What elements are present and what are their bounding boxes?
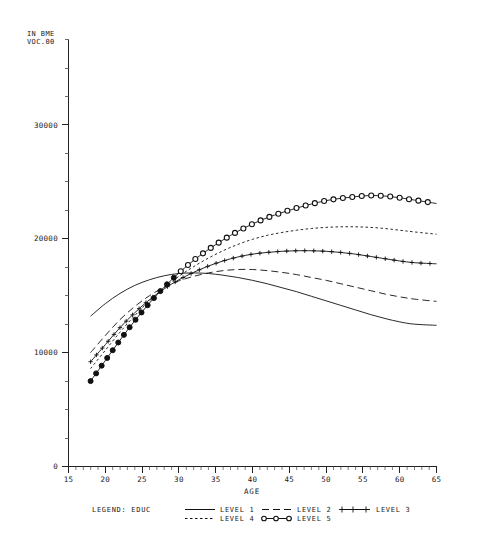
series-marker	[365, 254, 369, 258]
series-marker	[185, 263, 190, 268]
legend-label-level-2: LEVEL 2	[297, 506, 331, 514]
series-marker	[205, 264, 209, 268]
series-marker	[232, 230, 237, 235]
x-tick-label-55: 55	[358, 475, 368, 484]
x-tick-label-40: 40	[248, 475, 258, 484]
y-axis-label-line1: IN BME	[27, 30, 55, 38]
series-marker	[189, 271, 193, 275]
series-marker	[369, 193, 374, 198]
line-chart-svg: IN BME VOC.00 0 10000 20000 30000	[0, 0, 481, 553]
y-axis-ticks: 0 10000 20000 30000	[34, 121, 69, 472]
legend-swatch-level-5	[262, 516, 292, 521]
series-marker	[241, 226, 246, 231]
chart-series-group	[88, 193, 436, 384]
x-tick-label-15: 15	[64, 475, 74, 484]
series-marker	[165, 282, 170, 287]
series-level-5	[88, 193, 436, 384]
series-marker	[240, 254, 244, 258]
series-marker	[401, 259, 405, 263]
series-marker	[99, 363, 104, 368]
series-marker	[312, 201, 317, 206]
series-marker	[216, 240, 221, 245]
y-tick-label-0: 0	[53, 462, 58, 471]
series-marker	[425, 200, 430, 205]
series-line	[91, 195, 437, 381]
series-marker	[428, 261, 432, 265]
series-marker	[276, 211, 281, 216]
series-marker	[171, 275, 176, 280]
series-marker	[285, 249, 289, 253]
chart-figure: IN BME VOC.00 0 10000 20000 30000	[0, 0, 481, 553]
series-marker	[322, 199, 327, 204]
y-tick-label-20000: 20000	[34, 234, 58, 243]
x-tick-label-45: 45	[284, 475, 294, 484]
legend-label-level-4: LEVEL 4	[220, 515, 254, 523]
series-marker	[321, 249, 325, 253]
legend-title: LEGEND: EDUC	[92, 506, 151, 514]
x-axis-title: AGE	[244, 487, 260, 496]
series-marker	[350, 194, 355, 199]
series-marker	[392, 258, 396, 262]
series-marker	[331, 197, 336, 202]
series-marker	[139, 310, 144, 315]
series-marker	[258, 251, 262, 255]
series-marker	[294, 249, 298, 253]
legend-label-level-3: LEVEL 3	[376, 506, 410, 514]
series-marker	[267, 214, 272, 219]
series-line	[91, 273, 437, 325]
series-marker	[303, 203, 308, 208]
y-axis-label: IN BME VOC.00	[27, 30, 55, 46]
series-marker	[347, 251, 351, 255]
series-marker	[200, 251, 205, 256]
series-marker	[388, 194, 393, 199]
series-marker	[110, 348, 115, 353]
x-tick-label-35: 35	[211, 475, 221, 484]
series-marker	[330, 249, 334, 253]
series-marker	[224, 235, 229, 240]
series-marker	[208, 245, 213, 250]
series-marker	[178, 269, 183, 274]
series-level-4	[91, 227, 437, 369]
series-marker	[222, 258, 226, 262]
series-marker	[193, 257, 198, 262]
series-marker	[121, 332, 126, 337]
series-marker	[383, 257, 387, 261]
series-marker	[276, 249, 280, 253]
series-marker	[249, 252, 253, 256]
y-tick-label-10000: 10000	[34, 348, 58, 357]
chart-legend: LEGEND: EDUC LEVEL 1 LEVEL 4 LEVEL 2 LEV…	[92, 506, 410, 523]
series-marker	[249, 222, 254, 227]
legend-swatch-level-3	[339, 507, 370, 513]
series-marker	[116, 340, 121, 345]
x-tick-label-20: 20	[100, 475, 110, 484]
y-axis-label-line2: VOC.00	[27, 38, 55, 46]
x-tick-label-65: 65	[432, 475, 442, 484]
series-marker	[133, 317, 138, 322]
series-marker	[94, 371, 99, 376]
series-marker	[127, 325, 132, 330]
x-tick-label-25: 25	[137, 475, 147, 484]
series-marker	[145, 303, 150, 308]
series-marker	[378, 193, 383, 198]
x-tick-label-60: 60	[395, 475, 405, 484]
series-marker	[419, 261, 423, 265]
series-marker	[339, 250, 343, 254]
series-line	[91, 227, 437, 369]
series-marker	[359, 194, 364, 199]
series-marker	[258, 218, 263, 223]
series-level-1	[91, 273, 437, 325]
series-marker	[88, 379, 93, 384]
series-marker	[407, 197, 412, 202]
x-tick-label-30: 30	[174, 475, 184, 484]
legend-label-level-1: LEVEL 1	[220, 506, 254, 514]
series-marker	[356, 252, 360, 256]
x-tick-label-50: 50	[321, 475, 331, 484]
series-marker	[214, 261, 218, 265]
legend-label-level-5: LEVEL 5	[297, 515, 331, 523]
series-marker	[416, 198, 421, 203]
series-marker	[231, 256, 235, 260]
y-tick-label-30000: 30000	[34, 121, 58, 130]
series-marker	[374, 255, 378, 259]
series-marker	[267, 250, 271, 254]
series-level-3	[88, 248, 436, 363]
